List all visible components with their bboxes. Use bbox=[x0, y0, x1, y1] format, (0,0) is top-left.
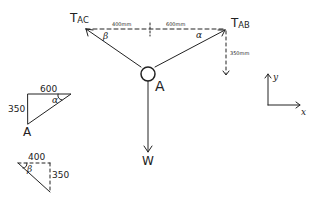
beta-angle-label: β bbox=[103, 32, 108, 41]
triangle-alpha-angle-label: α bbox=[52, 96, 58, 105]
alpha-angle-label: α bbox=[196, 31, 202, 40]
node-a-label: A bbox=[155, 79, 165, 93]
triangle-beta-side-label: 350 bbox=[52, 171, 69, 180]
right-dimension-label: 600mm bbox=[166, 22, 185, 27]
vertical-dimension-label: 350mm bbox=[230, 51, 249, 56]
free-body-diagram bbox=[0, 0, 331, 206]
tension-ab-line bbox=[155, 30, 225, 67]
triangle-alpha-top-label: 600 bbox=[40, 85, 57, 94]
y-axis-label: y bbox=[273, 73, 278, 82]
triangle-alpha-angle-arc bbox=[58, 94, 62, 100]
triangle-beta-angle-label: β bbox=[27, 165, 32, 174]
x-axis-label: x bbox=[301, 108, 306, 117]
tension-ac-label: TAC bbox=[70, 12, 89, 24]
triangle-alpha-vertex-label: A bbox=[23, 126, 31, 138]
weight-label: W bbox=[142, 155, 154, 167]
left-dimension-label: 400mm bbox=[112, 22, 131, 27]
tension-ab-label: TAB bbox=[231, 17, 250, 29]
tension-ac-line bbox=[86, 29, 141, 67]
triangle-beta-top-label: 400 bbox=[28, 153, 45, 162]
node-a-circle bbox=[141, 67, 155, 81]
triangle-beta-hypotenuse bbox=[18, 163, 50, 192]
triangle-alpha-side-label: 350 bbox=[8, 105, 25, 114]
triangle-alpha bbox=[28, 94, 71, 124]
